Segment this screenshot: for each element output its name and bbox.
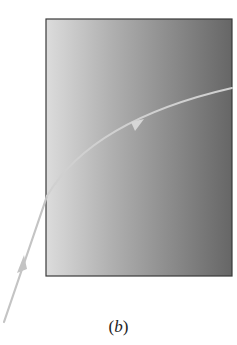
gradient-index-slab: [46, 19, 232, 276]
incident-ray: [4, 196, 47, 322]
caption-letter: b: [114, 317, 123, 336]
caption-close-paren: ): [123, 317, 129, 336]
figure-caption: (b): [0, 317, 237, 337]
refraction-diagram: [0, 0, 237, 345]
